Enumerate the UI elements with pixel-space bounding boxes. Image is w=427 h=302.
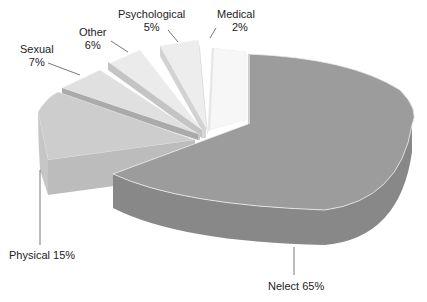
label-medical-pct: 2% xyxy=(217,21,255,34)
label-other-name: Other xyxy=(79,26,107,39)
label-sexual-name: Sexual xyxy=(20,43,54,56)
label-physical: Physical 15% xyxy=(9,249,75,262)
leader-medical xyxy=(210,28,216,38)
label-other-pct: 6% xyxy=(79,39,107,52)
label-physical-text: Physical 15% xyxy=(9,249,75,262)
label-medical-name: Medical xyxy=(217,8,255,21)
label-psychological-pct: 5% xyxy=(118,21,185,34)
label-sexual: Sexual 7% xyxy=(20,43,54,69)
label-sexual-pct: 7% xyxy=(20,56,54,69)
slice-medical xyxy=(208,48,246,132)
label-psychological-name: Psychological xyxy=(118,8,185,21)
label-nelect-text: Nelect 65% xyxy=(268,280,324,293)
label-psychological: Psychological 5% xyxy=(118,8,185,34)
leader-other xyxy=(111,41,128,52)
label-medical: Medical 2% xyxy=(217,8,255,34)
label-nelect: Nelect 65% xyxy=(268,280,324,293)
label-other: Other 6% xyxy=(79,26,107,52)
